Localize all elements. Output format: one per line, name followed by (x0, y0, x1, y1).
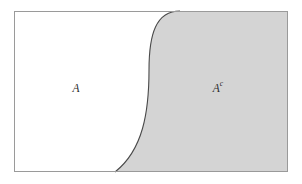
set-complement-figure: A Ac (0, 0, 302, 184)
label-set-a: A (71, 82, 80, 94)
set-diagram-canvas: A Ac (0, 0, 302, 184)
